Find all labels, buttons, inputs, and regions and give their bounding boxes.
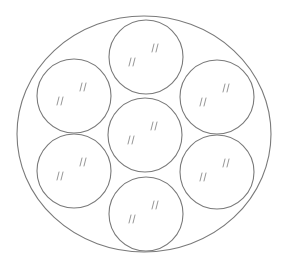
glare-mark-icon [227, 84, 229, 92]
glare-mark-icon [223, 84, 225, 92]
circle-top [109, 20, 183, 94]
glare-mark-icon [152, 201, 154, 209]
inner-circle [180, 60, 254, 134]
circle-lower-right [180, 135, 254, 209]
circle-upper-right [180, 60, 254, 134]
circle-center [108, 98, 182, 172]
circle-upper-left [37, 59, 111, 133]
glare-mark-icon [57, 172, 59, 180]
glare-mark-icon [133, 215, 135, 223]
glare-mark-icon [155, 122, 157, 130]
glare-mark-icon [200, 173, 202, 181]
outer-circle [17, 16, 271, 252]
glare-mark-icon [128, 136, 130, 144]
glare-mark-icon [61, 97, 63, 105]
glare-mark-icon [204, 98, 206, 106]
glare-mark-icon [133, 58, 135, 66]
inner-circles-group [37, 20, 254, 251]
inner-circle [108, 98, 182, 172]
glare-mark-icon [84, 158, 86, 166]
glare-mark-icon [227, 159, 229, 167]
glare-mark-icon [129, 215, 131, 223]
circle-bottom [109, 177, 183, 251]
circle-packing-diagram [0, 0, 286, 268]
glare-mark-icon [152, 44, 154, 52]
inner-circle [109, 177, 183, 251]
glare-mark-icon [80, 83, 82, 91]
glare-mark-icon [200, 98, 202, 106]
glare-mark-icon [156, 201, 158, 209]
inner-circle [37, 134, 111, 208]
inner-circle [109, 20, 183, 94]
glare-mark-icon [57, 97, 59, 105]
glare-mark-icon [151, 122, 153, 130]
glare-mark-icon [61, 172, 63, 180]
glare-mark-icon [204, 173, 206, 181]
glare-mark-icon [223, 159, 225, 167]
glare-mark-icon [132, 136, 134, 144]
glare-mark-icon [156, 44, 158, 52]
inner-circle [37, 59, 111, 133]
glare-mark-icon [84, 83, 86, 91]
circle-lower-left [37, 134, 111, 208]
glare-mark-icon [129, 58, 131, 66]
glare-mark-icon [80, 158, 82, 166]
inner-circle [180, 135, 254, 209]
